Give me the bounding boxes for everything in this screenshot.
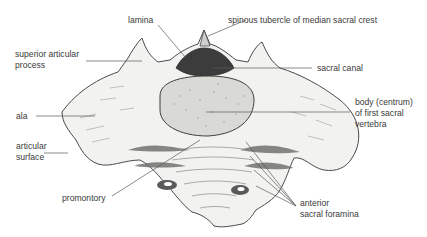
- label-superior-articular-process-line1: superior articular: [15, 49, 79, 60]
- label-articular-surface-line1: articular: [16, 141, 47, 152]
- sacrum-diagram: lamina spinous tubercle of median sacral…: [0, 0, 427, 237]
- foramen-left-highlight: [164, 182, 172, 186]
- label-sacral-canal: sacral canal: [317, 63, 363, 74]
- label-spinous-tubercle: spinous tubercle of median sacral crest: [228, 15, 377, 26]
- label-lamina: lamina: [128, 15, 153, 26]
- label-anterior-sacral-foramina-line1: anterior: [300, 198, 329, 209]
- vertebral-body: [160, 76, 254, 136]
- label-body-line1: body (centrum): [355, 97, 413, 108]
- label-superior-articular-process-line2: process: [15, 60, 45, 71]
- label-body-line3: vertebra: [355, 119, 387, 130]
- label-ala: ala: [16, 111, 27, 122]
- label-body-line2: of first sacral: [355, 108, 404, 119]
- label-anterior-sacral-foramina-line2: sacral foramina: [300, 209, 359, 220]
- label-articular-surface-line2: surface: [16, 152, 44, 163]
- foramen-right-highlight: [238, 187, 245, 191]
- label-promontory: promontory: [62, 193, 105, 204]
